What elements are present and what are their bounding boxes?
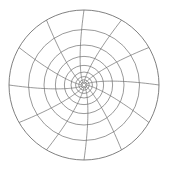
chart-background xyxy=(0,0,169,175)
polar-grid-chart xyxy=(0,0,169,175)
figure-root xyxy=(0,0,169,175)
